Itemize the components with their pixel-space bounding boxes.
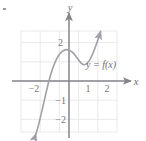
label-layer: −2 1 2 2 −1 −2 x y y = f(x) xyxy=(0,0,146,141)
x-tick-label-1: 1 xyxy=(86,83,91,94)
decorative-speck xyxy=(3,8,6,10)
x-axis-label: x xyxy=(133,76,139,87)
y-tick-label-2: 2 xyxy=(58,37,63,48)
y-tick-label--1: −1 xyxy=(55,95,66,106)
x-tick-label--2: −2 xyxy=(29,83,40,94)
curve-label: y = f(x) xyxy=(85,59,117,71)
y-axis-label: y xyxy=(67,2,73,13)
y-tick-label--2: −2 xyxy=(55,114,66,125)
x-tick-label-2: 2 xyxy=(105,83,110,94)
graph-figure: −2 1 2 2 −1 −2 x y y = f(x) xyxy=(0,0,146,141)
